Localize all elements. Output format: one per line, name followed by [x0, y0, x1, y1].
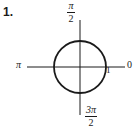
fraction-denominator: 2 — [67, 14, 74, 25]
fraction-pi-over-2: π 2 — [67, 1, 74, 24]
fraction-three-pi-over-2: 3π 2 — [85, 105, 97, 128]
fraction-numerator: π — [67, 1, 74, 12]
angle-label-three-pi-over-2: 3π 2 — [80, 105, 102, 128]
angle-label-pi: π — [16, 60, 21, 70]
fraction-numerator: 3π — [85, 105, 97, 116]
angle-label-pi-over-2: π 2 — [62, 1, 80, 24]
fraction-denominator: 2 — [85, 118, 97, 129]
radius-value-label-one: 1 — [106, 66, 111, 75]
angle-label-zero: 0 — [127, 60, 132, 70]
